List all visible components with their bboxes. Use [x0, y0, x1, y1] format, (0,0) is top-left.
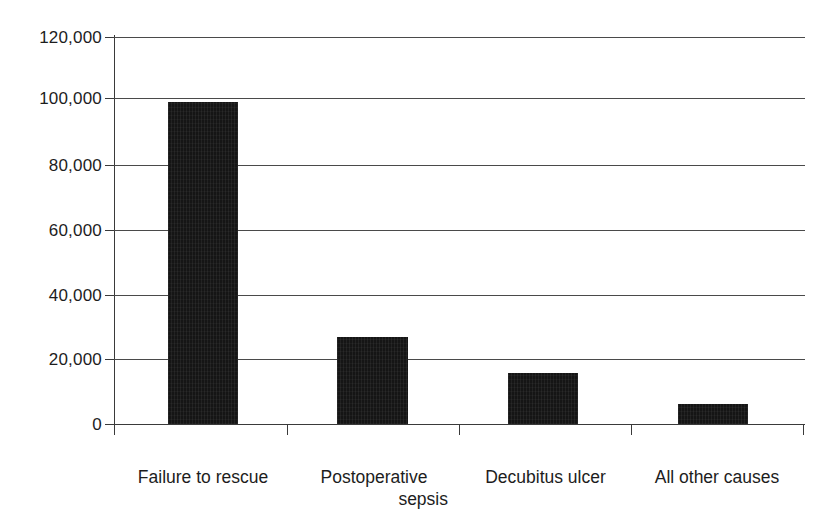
x-category-label-line: Decubitus ulcer — [485, 467, 606, 487]
x-category-label-line: All other causes — [655, 467, 780, 487]
x-tick-mark-1 — [287, 424, 288, 435]
y-tick-mark-120000 — [105, 37, 114, 38]
bar-chart-figure: 120,000 100,000 80,000 60,000 40,000 20,… — [0, 0, 838, 523]
x-tick-mark-2 — [459, 424, 460, 435]
x-category-label-decubitus-ulcer: Decubitus ulcer — [468, 444, 623, 488]
y-tick-label-20000: 20,000 — [10, 351, 102, 368]
bar-decubitus-ulcer — [508, 373, 578, 424]
bar-all-other-causes — [678, 404, 748, 424]
x-tick-mark-0 — [114, 424, 115, 435]
y-tick-label-80000: 80,000 — [10, 157, 102, 174]
x-tick-mark-3 — [631, 424, 632, 435]
x-category-label-all-other-causes: All other causes — [636, 444, 798, 488]
y-tick-label-60000: 60,000 — [10, 222, 102, 239]
x-category-label-line: Failure to rescue — [138, 467, 268, 487]
y-tick-mark-60000 — [105, 230, 114, 231]
y-tick-mark-20000 — [105, 359, 114, 360]
gridline-100000 — [114, 98, 805, 99]
gridline-0 — [114, 424, 805, 425]
bar-failure-to-rescue — [168, 102, 238, 425]
x-category-label-failure-to-rescue: Failure to rescue — [124, 444, 282, 488]
y-tick-mark-0 — [105, 424, 114, 425]
y-tick-mark-40000 — [105, 295, 114, 296]
x-category-label-postoperative-sepsis: Postoperative sepsis — [300, 444, 448, 523]
x-tick-mark-4 — [803, 424, 804, 435]
y-tick-mark-80000 — [105, 165, 114, 166]
x-category-label-line: Postoperative — [320, 467, 427, 487]
y-tick-label-120000: 120,000 — [10, 29, 102, 46]
plot-area — [114, 37, 805, 424]
y-tick-mark-100000 — [105, 98, 114, 99]
x-category-label-line: sepsis — [300, 488, 448, 510]
y-tick-label-0: 0 — [10, 416, 102, 433]
y-tick-label-40000: 40,000 — [10, 287, 102, 304]
y-tick-label-100000: 100,000 — [10, 90, 102, 107]
bar-postoperative-sepsis — [337, 337, 408, 424]
gridline-120000 — [114, 37, 805, 38]
